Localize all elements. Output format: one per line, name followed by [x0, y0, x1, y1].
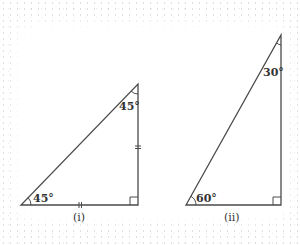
triangle-ii [186, 35, 281, 205]
caption-i: (i) [73, 211, 85, 224]
angle-arc-top-ii [277, 43, 281, 45]
triangle-ii-outline [186, 35, 281, 205]
angle-label-top-ii: 30° [263, 66, 284, 79]
angle-label-bottom-left-i: 45° [33, 192, 54, 205]
angle-label-bottom-left-ii: 60° [196, 192, 217, 205]
right-angle-mark-i [130, 197, 138, 205]
angle-label-top-i: 45° [119, 100, 140, 113]
right-angle-mark-ii [273, 197, 281, 205]
caption-ii: (ii) [224, 211, 240, 224]
angle-arc-bottom-left-i [28, 198, 31, 205]
triangles-diagram: 45° 45° (i) 60° 30° (ii) [0, 0, 300, 245]
angle-arc-top-i [131, 91, 138, 94]
